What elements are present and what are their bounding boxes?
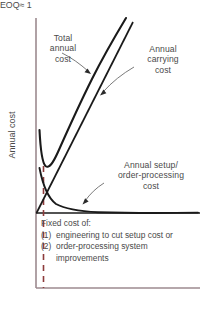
fixed-cost-heading: Fixed cost of: bbox=[41, 218, 199, 230]
fixed-cost-item-number: (2) bbox=[41, 241, 56, 253]
y-axis-label-wrapper: Annual cost bbox=[7, 97, 21, 173]
fixed-cost-item-text: order-processing system improvements bbox=[56, 241, 199, 264]
eoq-cost-chart: Annual cost Total annual cost Annual car… bbox=[0, 0, 206, 312]
fixed-cost-item: (1) engineering to cut setup cost or bbox=[41, 230, 199, 242]
fixed-cost-item-text: engineering to cut setup cost or bbox=[56, 230, 199, 242]
annual-carrying-cost-arrowhead bbox=[100, 90, 106, 96]
y-axis-label: Annual cost bbox=[7, 97, 17, 173]
fixed-cost-item-number: (1) bbox=[41, 230, 56, 242]
annual-setup-cost-arrowhead bbox=[83, 198, 89, 204]
fixed-cost-note: Fixed cost of: (1) engineering to cut se… bbox=[41, 218, 199, 264]
annotation-annual-carrying-cost: Annual carrying cost bbox=[135, 44, 191, 75]
annotation-total-annual-cost: Total annual cost bbox=[37, 33, 89, 64]
annotation-annual-setup-cost: Annual setup/ order-processing cost bbox=[101, 160, 201, 191]
fixed-cost-item: (2) order-processing system improvements bbox=[41, 241, 199, 264]
